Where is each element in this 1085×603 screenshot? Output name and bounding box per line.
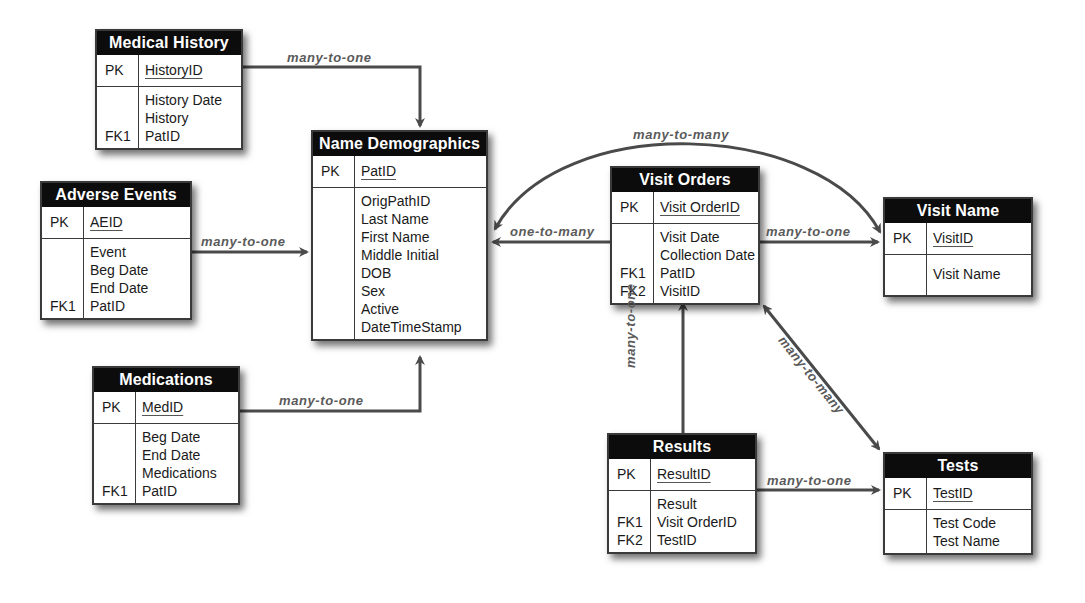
label-results-tests-rel: many-to-one bbox=[767, 473, 852, 488]
attr-field: History Date bbox=[145, 91, 241, 109]
entity-visit-name[interactable]: Visit Name PK VisitID Visit Name bbox=[883, 197, 1033, 297]
pk-row: PK Visit OrderID bbox=[612, 192, 758, 224]
attr-key: FK2 bbox=[617, 531, 650, 549]
attr-field: Last Name bbox=[361, 210, 486, 228]
pk-key: PK bbox=[885, 478, 927, 509]
attr-field: Medications bbox=[142, 464, 238, 482]
attr-field: Event bbox=[90, 243, 190, 261]
attr-key bbox=[102, 428, 135, 446]
attr-key bbox=[105, 91, 138, 109]
entity-adverse-events[interactable]: Adverse Events PK AEID FK1 Event Beg Dat… bbox=[40, 181, 192, 320]
label-visit-orders-visit-name-rel: many-to-one bbox=[766, 224, 851, 239]
entity-medical-history[interactable]: Medical History PK HistoryID FK1 History… bbox=[95, 29, 243, 150]
attr-field: TestID bbox=[657, 531, 755, 549]
pk-row: PK VisitID bbox=[885, 223, 1031, 255]
attr-field: VisitID bbox=[660, 282, 758, 300]
er-diagram: many-to-one many-to-one many-to-one one-… bbox=[0, 0, 1085, 603]
attr-key bbox=[321, 192, 354, 210]
attr-key bbox=[50, 279, 83, 297]
entity-title: Medical History bbox=[97, 31, 241, 55]
entity-medications[interactable]: Medications PK MedID FK1 Beg Date End Da… bbox=[92, 366, 240, 505]
attr-key bbox=[893, 265, 926, 283]
label-results-visit-orders-rel: many-to-one bbox=[623, 283, 638, 368]
entity-tests[interactable]: Tests PK TestID Test Code Test Name bbox=[883, 452, 1033, 555]
pk-row: PK AEID bbox=[42, 207, 190, 239]
attr-field: Test Name bbox=[933, 532, 1031, 550]
attr-key bbox=[617, 495, 650, 513]
attr-key bbox=[102, 446, 135, 464]
connector-medical-history bbox=[243, 67, 420, 126]
label-adverse-events-rel: many-to-one bbox=[201, 234, 286, 249]
pk-row: PK HistoryID bbox=[97, 55, 241, 87]
pk-key: PK bbox=[97, 55, 139, 86]
attr-field: Beg Date bbox=[142, 428, 238, 446]
attr-key bbox=[321, 210, 354, 228]
attr-field: DateTimeStamp bbox=[361, 318, 486, 336]
attr-key bbox=[321, 264, 354, 282]
pk-key: PK bbox=[612, 192, 654, 223]
attr-field: Visit Date bbox=[660, 228, 758, 246]
pk-key: PK bbox=[609, 459, 651, 490]
attr-key bbox=[321, 318, 354, 336]
entity-title: Adverse Events bbox=[42, 183, 190, 207]
pk-key: PK bbox=[42, 207, 84, 238]
attr-field: End Date bbox=[142, 446, 238, 464]
label-medications-rel: many-to-one bbox=[279, 393, 364, 408]
attributes-row: OrigPathID Last Name First Name Middle I… bbox=[313, 188, 486, 339]
attr-field: PatID bbox=[142, 482, 238, 500]
entity-title: Medications bbox=[94, 368, 238, 392]
attr-field: First Name bbox=[361, 228, 486, 246]
pk-row: PK TestID bbox=[885, 478, 1031, 510]
attr-key: FK1 bbox=[617, 513, 650, 531]
pk-field: VisitID bbox=[933, 230, 973, 246]
attr-field: Visit OrderID bbox=[657, 513, 755, 531]
attr-key bbox=[102, 464, 135, 482]
entity-title: Visit Orders bbox=[612, 168, 758, 192]
attr-key bbox=[50, 261, 83, 279]
entity-title: Visit Name bbox=[885, 199, 1031, 223]
pk-row: PK MedID bbox=[94, 392, 238, 424]
attributes-row: Test Code Test Name bbox=[885, 510, 1031, 553]
entity-results[interactable]: Results PK ResultID FK1 FK2 Result Visit… bbox=[607, 433, 757, 554]
pk-field: PatID bbox=[361, 163, 396, 179]
attr-field: PatID bbox=[90, 297, 190, 315]
attr-key: FK1 bbox=[50, 297, 83, 315]
attributes-row: FK1 History Date History PatID bbox=[97, 87, 241, 148]
attr-field: Test Code bbox=[933, 514, 1031, 532]
attr-key: FK1 bbox=[105, 127, 138, 145]
attr-field: Result bbox=[657, 495, 755, 513]
attributes-row: FK1 Event Beg Date End Date PatID bbox=[42, 239, 190, 318]
pk-row: PK PatID bbox=[313, 156, 486, 188]
attr-field: Sex bbox=[361, 282, 486, 300]
pk-field: HistoryID bbox=[145, 62, 203, 78]
attr-key bbox=[893, 532, 926, 550]
attr-key bbox=[620, 246, 653, 264]
attr-field: History bbox=[145, 109, 241, 127]
attr-key bbox=[321, 246, 354, 264]
entity-title: Tests bbox=[885, 454, 1031, 478]
attr-field: Beg Date bbox=[90, 261, 190, 279]
attr-field: OrigPathID bbox=[361, 192, 486, 210]
attr-field: Collection Date bbox=[660, 246, 758, 264]
attr-field: Active bbox=[361, 300, 486, 318]
pk-field: AEID bbox=[90, 214, 123, 230]
entity-title: Results bbox=[609, 435, 755, 459]
pk-key: PK bbox=[313, 156, 355, 187]
pk-field: MedID bbox=[142, 399, 183, 415]
pk-key: PK bbox=[885, 223, 927, 254]
attributes-row: Visit Name bbox=[885, 255, 1031, 295]
attr-key bbox=[321, 282, 354, 300]
attributes-row: FK1 FK2 Result Visit OrderID TestID bbox=[609, 491, 755, 552]
entity-name-demographics[interactable]: Name Demographics PK PatID OrigPathID La… bbox=[311, 130, 488, 341]
pk-field: TestID bbox=[933, 485, 973, 501]
label-visit-orders-demographics-rel: one-to-many bbox=[510, 224, 595, 239]
label-medical-history-rel: many-to-one bbox=[287, 50, 372, 65]
attributes-row: FK1 Beg Date End Date Medications PatID bbox=[94, 424, 238, 503]
pk-field: Visit OrderID bbox=[660, 199, 740, 215]
attr-key bbox=[321, 300, 354, 318]
attr-key bbox=[620, 228, 653, 246]
attr-key: FK1 bbox=[620, 264, 653, 282]
attr-field: PatID bbox=[145, 127, 241, 145]
pk-row: PK ResultID bbox=[609, 459, 755, 491]
attr-field: End Date bbox=[90, 279, 190, 297]
